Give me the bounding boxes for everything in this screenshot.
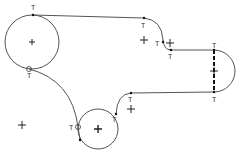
cross-icon[interactable]: [18, 121, 26, 129]
cross-icon[interactable]: [127, 105, 135, 113]
cross-icon[interactable]: [210, 67, 218, 75]
sketch-canvas[interactable]: [0, 0, 241, 157]
cross-icon[interactable]: [140, 36, 148, 44]
top-line[interactable]: [33, 15, 144, 18]
tangent-constraint-label[interactable]: T: [155, 40, 159, 47]
bottom-line[interactable]: [131, 92, 214, 93]
tangent-constraint-label[interactable]: T: [112, 116, 116, 123]
center-cross-icons: [18, 36, 218, 133]
tangent-constraint-label[interactable]: T: [212, 42, 216, 49]
tangent-constraint-label[interactable]: T: [141, 22, 145, 29]
cross-icon[interactable]: [29, 39, 35, 45]
tangent-constraint-label[interactable]: T: [27, 72, 31, 79]
tangent-constraint-label[interactable]: T: [128, 96, 132, 103]
tangent-constraint-label[interactable]: T: [69, 124, 73, 131]
endpoints: [32, 14, 215, 141]
cross-icon[interactable]: [94, 125, 102, 133]
tangent-constraint-label[interactable]: T: [168, 53, 172, 60]
tangent-constraint-label[interactable]: T: [31, 4, 35, 11]
tangent-constraint-label[interactable]: T: [212, 96, 216, 103]
cross-icon[interactable]: [166, 39, 174, 47]
